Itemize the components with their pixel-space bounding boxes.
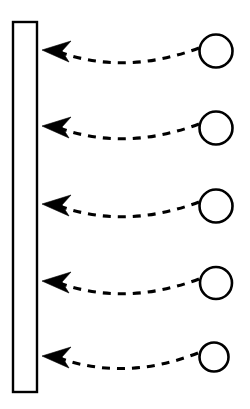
node-circle-1 — [200, 35, 233, 68]
diagram-canvas — [0, 0, 250, 409]
node-circle-3 — [200, 190, 233, 223]
diagram-svg — [0, 0, 250, 409]
vertical-bar — [13, 22, 37, 392]
node-circle-4 — [200, 267, 232, 299]
node-circle-5 — [200, 343, 229, 372]
node-circle-2 — [200, 112, 233, 145]
